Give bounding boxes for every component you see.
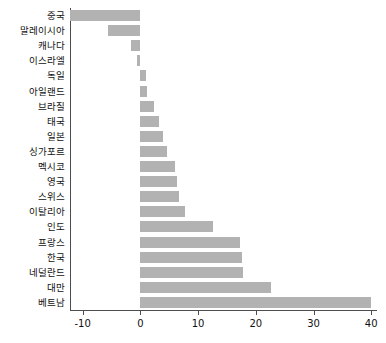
x-axis-tick-label: -10 (63, 318, 103, 329)
bar-row: 스위스 (70, 189, 377, 204)
x-axis-tick-label: 40 (351, 318, 386, 329)
bar (131, 40, 140, 51)
x-axis-tick-label: 10 (178, 318, 218, 329)
bar (140, 131, 163, 142)
bar-row: 중국 (70, 8, 377, 23)
bar-row: 한국 (70, 250, 377, 265)
bar (140, 267, 243, 278)
category-label: 말레이시아 (1, 25, 65, 36)
category-label: 스위스 (1, 191, 65, 202)
x-axis-tick-label: 30 (294, 318, 334, 329)
category-label: 대만 (1, 282, 65, 293)
bar-row: 프랑스 (70, 235, 377, 250)
bar (140, 161, 175, 172)
category-label: 영국 (1, 176, 65, 187)
x-axis-tick-label: 0 (120, 318, 160, 329)
bar-row: 독일 (70, 68, 377, 83)
bar (70, 10, 140, 21)
category-label: 네덜란드 (1, 267, 65, 278)
bar (140, 176, 177, 187)
category-label: 브라질 (1, 101, 65, 112)
bar-row: 이스라엘 (70, 53, 377, 68)
x-axis-tick (140, 311, 141, 315)
bar-row: 영국 (70, 174, 377, 189)
bar (108, 25, 140, 36)
bar-row: 이탈리아 (70, 204, 377, 219)
bar-chart: 중국말레이시아캐나다이스라엘독일아일랜드브라질태국일본싱가포르멕시코영국스위스이… (0, 0, 386, 343)
category-label: 이탈리아 (1, 206, 65, 217)
bar (140, 221, 213, 232)
bar-row: 싱가포르 (70, 144, 377, 159)
bar (140, 282, 270, 293)
x-axis-tick-label: 20 (236, 318, 276, 329)
x-axis-tick (256, 311, 257, 315)
bar (140, 116, 159, 127)
bar (140, 70, 145, 81)
bar-row: 태국 (70, 114, 377, 129)
category-label: 일본 (1, 131, 65, 142)
bar (140, 206, 184, 217)
category-label: 싱가포르 (1, 146, 65, 157)
x-axis-tick (198, 311, 199, 315)
bar-row: 말레이시아 (70, 23, 377, 38)
bar-row: 브라질 (70, 99, 377, 114)
bar-row: 대만 (70, 280, 377, 295)
category-label: 중국 (1, 10, 65, 21)
category-label: 아일랜드 (1, 86, 65, 97)
category-label: 한국 (1, 252, 65, 263)
category-label: 이스라엘 (1, 55, 65, 66)
plot-area: 중국말레이시아캐나다이스라엘독일아일랜드브라질태국일본싱가포르멕시코영국스위스이… (70, 8, 377, 310)
category-label: 프랑스 (1, 237, 65, 248)
bar (140, 237, 240, 248)
bar (140, 252, 242, 263)
bar-row: 캐나다 (70, 38, 377, 53)
x-axis-spine (70, 310, 377, 311)
category-label: 인도 (1, 221, 65, 232)
category-label: 멕시코 (1, 161, 65, 172)
bar-row: 일본 (70, 129, 377, 144)
category-label: 베트남 (1, 297, 65, 308)
bar-row: 네덜란드 (70, 265, 377, 280)
x-axis-tick (83, 311, 84, 315)
bar-row: 멕시코 (70, 159, 377, 174)
category-label: 캐나다 (1, 40, 65, 51)
x-axis-tick (314, 311, 315, 315)
category-label: 독일 (1, 70, 65, 81)
x-axis-tick (371, 311, 372, 315)
bar-row: 인도 (70, 219, 377, 234)
bar (140, 297, 371, 308)
bar-row: 베트남 (70, 295, 377, 310)
bar (140, 86, 147, 97)
bar (137, 55, 140, 66)
bar-row: 아일랜드 (70, 84, 377, 99)
category-label: 태국 (1, 116, 65, 127)
bar (140, 101, 153, 112)
bar (140, 191, 179, 202)
bar (140, 146, 167, 157)
